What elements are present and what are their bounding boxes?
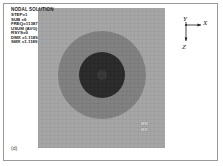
axis-label-x: X	[202, 19, 208, 27]
max-node-marker: MX	[141, 127, 148, 132]
min-node-marker: MN	[141, 121, 148, 126]
axis-label-z: Z	[182, 43, 186, 50]
axis-label-y: Y	[183, 15, 188, 23]
nodal-solution-legend: NODAL SOLUTION STEP=1 SUB =6 FREQ=11387 …	[11, 8, 69, 45]
contour-band-core	[97, 70, 107, 80]
axis-triad: Y X Z	[178, 14, 212, 50]
legend-line-smx: SMX =1.1189	[11, 40, 69, 44]
axis-triad-svg: Y X Z	[178, 14, 212, 50]
subfigure-caption: (d)	[11, 145, 17, 151]
figure-root: MN MX NODAL SOLUTION STEP=1 SUB =6 FREQ=…	[0, 0, 223, 166]
